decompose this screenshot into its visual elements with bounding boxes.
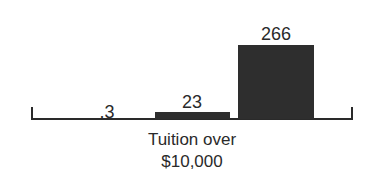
bar-1 [155, 112, 230, 119]
bar-value-label-1: 23 [152, 93, 232, 111]
x-axis-right-tick [351, 107, 353, 120]
bar-value-label-0: .3 [67, 103, 147, 121]
bar-2 [238, 45, 314, 119]
bar-value-label-2: 266 [236, 25, 316, 43]
x-axis-label: Tuition over $10,000 [112, 129, 272, 173]
x-axis-label-line-2: $10,000 [112, 151, 272, 173]
bar-chart: .3 23 266 Tuition over $10,000 [0, 0, 373, 184]
x-axis-left-tick [31, 107, 33, 120]
x-axis-label-line-1: Tuition over [112, 129, 272, 151]
